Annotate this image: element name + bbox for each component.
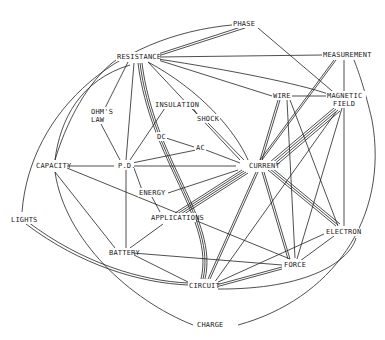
node-ohms-law-line2[interactable]: LAW xyxy=(91,116,105,124)
node-insulation[interactable]: INSULATION xyxy=(155,101,199,109)
node-battery[interactable]: BATTERY xyxy=(109,249,140,257)
node-force[interactable]: FORCE xyxy=(284,261,306,269)
edge-applications-current-d xyxy=(181,173,248,216)
edge-current-electron-b xyxy=(270,169,338,225)
edge-force-circuit-b xyxy=(216,269,282,287)
edge-current-electron-a xyxy=(268,170,336,226)
node-wire[interactable]: WIRE xyxy=(273,92,291,100)
edge-current-circuit-a xyxy=(208,172,256,279)
node-electron[interactable]: ELECTRON xyxy=(326,228,361,236)
edge-capacity-battery xyxy=(55,172,115,248)
node-charge[interactable]: CHARGE xyxy=(197,321,224,329)
node-pd[interactable]: P.D. xyxy=(118,162,136,170)
edge-magnetic-current-b xyxy=(271,109,336,164)
edge-electron-force xyxy=(300,236,334,261)
edge-magnetic-current-a xyxy=(270,108,334,162)
edge-dc-ac xyxy=(166,138,194,147)
edge-current-electron-c xyxy=(272,168,340,224)
node-ohms-law-line1[interactable]: OHM'S xyxy=(91,108,113,116)
edges xyxy=(22,24,375,325)
concept-map-diagram: PHASE RESISTANCE MEASUREMENT WIRE MAGNET… xyxy=(0,0,385,340)
edge-energy-applications xyxy=(152,197,160,212)
edge-wire-current-b xyxy=(262,100,280,160)
node-shock[interactable]: SHOCK xyxy=(197,115,220,123)
node-energy[interactable]: ENERGY xyxy=(139,189,166,197)
node-dc[interactable]: DC xyxy=(157,133,166,141)
edge-resistance-magnetic xyxy=(158,59,328,94)
node-lights[interactable]: LIGHTS xyxy=(11,216,38,224)
edge-resistance-phase-b xyxy=(158,28,245,56)
edge-applications-current-b xyxy=(177,171,244,214)
node-magnetic-field-line2[interactable]: FIELD xyxy=(333,100,355,108)
edge-electron-circuit xyxy=(216,234,324,283)
edge-shock-current xyxy=(208,123,244,160)
edge-resistance-current xyxy=(148,62,240,160)
edge-ohms-pd xyxy=(101,124,120,160)
node-capacity[interactable]: CAPACITY xyxy=(36,162,72,170)
edge-applications-battery xyxy=(130,224,163,248)
node-measurement[interactable]: MEASUREMENT xyxy=(323,51,372,59)
edge-lights-circuit-a xyxy=(26,224,188,285)
edge-resistance-phase-a xyxy=(158,26,244,54)
node-applications[interactable]: APPLICATIONS xyxy=(151,214,204,222)
edge-ac-current xyxy=(206,150,240,163)
node-circuit[interactable]: CIRCUIT xyxy=(189,282,220,290)
edge-resistance-pd xyxy=(126,63,134,160)
node-current[interactable]: CURRENT xyxy=(249,162,280,170)
edge-force-circuit-a xyxy=(216,267,282,285)
node-phase[interactable]: PHASE xyxy=(233,20,255,28)
edge-magnetic-current-c xyxy=(272,110,338,166)
edge-magnetic-current-d xyxy=(273,111,340,168)
node-ac[interactable]: AC xyxy=(196,144,205,152)
edge-measurement-current-b xyxy=(262,60,336,160)
edge-applications-current-a xyxy=(175,170,242,213)
node-magnetic-field-line1[interactable]: MAGNETIC xyxy=(327,92,362,100)
edge-resistance-ohms xyxy=(105,62,128,108)
node-resistance[interactable]: RESISTANCE xyxy=(117,53,161,61)
edge-pd-energy xyxy=(134,168,142,190)
edge-resistance-measurement xyxy=(158,55,322,57)
edge-circuit-magnetic xyxy=(214,112,336,283)
